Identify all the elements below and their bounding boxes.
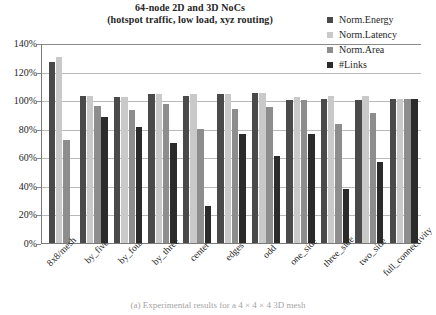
- bar[interactable]: [56, 57, 63, 243]
- bar[interactable]: [80, 96, 87, 243]
- bar[interactable]: [328, 96, 335, 243]
- bar[interactable]: [101, 117, 108, 243]
- y-axis-tick-label: 60%: [19, 153, 37, 163]
- bar-groups: [42, 44, 421, 243]
- y-axis-tick-label: 0%: [24, 239, 37, 249]
- chart-figure: 64-node 2D and 3D NoCs (hotspot traffic,…: [0, 0, 436, 315]
- bar[interactable]: [136, 127, 143, 243]
- legend-swatch-icon: [327, 17, 333, 23]
- bar[interactable]: [87, 96, 94, 243]
- legend-item-norm-energy[interactable]: Norm.Energy: [327, 12, 435, 27]
- bar[interactable]: [294, 97, 301, 243]
- bar[interactable]: [163, 104, 170, 243]
- bar[interactable]: [217, 94, 224, 243]
- bar-group: [76, 44, 110, 243]
- bar[interactable]: [259, 93, 266, 243]
- chart-subtitle: (hotspot traffic, low load, xyz routing): [55, 14, 325, 26]
- bar-group: [111, 44, 145, 243]
- bar-group: [214, 44, 248, 243]
- x-axis-label-slot: odd: [248, 246, 283, 296]
- bar[interactable]: [286, 100, 293, 243]
- bar-group: [145, 44, 179, 243]
- bar[interactable]: [390, 99, 397, 243]
- y-axis: 0%20%40%60%80%100%120%140%: [0, 44, 40, 244]
- bar[interactable]: [156, 94, 163, 243]
- x-axis-label-slot: by_five: [76, 246, 111, 296]
- x-axis-label-slot: center: [179, 246, 214, 296]
- bar[interactable]: [121, 97, 128, 243]
- figure-caption: (a) Experimental results for a 4 × 4 × 4…: [0, 300, 436, 310]
- bar[interactable]: [239, 134, 246, 243]
- bar-group: [283, 44, 317, 243]
- bar[interactable]: [197, 129, 204, 243]
- plot-area-wrapper: 0%20%40%60%80%100%120%140%: [0, 44, 436, 254]
- bar[interactable]: [362, 96, 369, 243]
- legend-item-norm-latency[interactable]: Norm.Latency: [327, 27, 435, 42]
- y-axis-tick-label: 20%: [19, 210, 37, 220]
- chart-title-block: 64-node 2D and 3D NoCs (hotspot traffic,…: [55, 2, 325, 26]
- bar[interactable]: [397, 99, 404, 243]
- bar[interactable]: [190, 94, 197, 243]
- bar[interactable]: [266, 107, 273, 243]
- bar[interactable]: [225, 94, 232, 243]
- chart-title: 64-node 2D and 3D NoCs: [55, 2, 325, 14]
- bar[interactable]: [148, 94, 155, 243]
- y-axis-tick-label: 120%: [14, 68, 37, 78]
- y-axis-tick-label: 80%: [19, 125, 37, 135]
- x-axis-label-slot: full_connectivity: [386, 246, 421, 296]
- y-axis-tick-label: 140%: [14, 39, 37, 49]
- bar[interactable]: [94, 106, 101, 243]
- bar[interactable]: [335, 124, 342, 243]
- x-axis-label: odd: [261, 243, 278, 260]
- x-axis-label-slot: edges: [214, 246, 249, 296]
- bar[interactable]: [301, 100, 308, 243]
- bar-group: [249, 44, 283, 243]
- x-axis-label-slot: three_side: [317, 246, 352, 296]
- bar[interactable]: [183, 96, 190, 243]
- bar-group: [42, 44, 76, 243]
- x-axis-label-slot: by_three: [145, 246, 180, 296]
- y-axis-tick-mark: [37, 244, 41, 245]
- bar[interactable]: [377, 162, 384, 243]
- bar[interactable]: [370, 113, 377, 243]
- x-axis-label-slot: 8x8/mesh: [41, 246, 76, 296]
- legend-swatch-icon: [327, 32, 333, 38]
- bar[interactable]: [404, 99, 411, 243]
- bar[interactable]: [170, 143, 177, 243]
- x-axis-label-slot: one_side: [283, 246, 318, 296]
- bar[interactable]: [411, 99, 418, 243]
- bar[interactable]: [321, 99, 328, 243]
- x-axis-label-slot: by_four: [110, 246, 145, 296]
- bar[interactable]: [232, 109, 239, 243]
- bar[interactable]: [274, 156, 281, 243]
- bar-group: [387, 44, 421, 243]
- plot-area: [41, 44, 421, 244]
- bar[interactable]: [63, 140, 70, 243]
- bar[interactable]: [355, 100, 362, 243]
- bar[interactable]: [114, 97, 121, 243]
- bar[interactable]: [308, 134, 315, 243]
- legend-label: Norm.Latency: [339, 29, 397, 40]
- bar[interactable]: [129, 110, 136, 243]
- legend-label: Norm.Energy: [339, 14, 394, 25]
- bar-group: [180, 44, 214, 243]
- bar[interactable]: [205, 206, 212, 243]
- bar-group: [318, 44, 352, 243]
- bar[interactable]: [252, 93, 259, 243]
- y-axis-tick-label: 100%: [14, 96, 37, 106]
- x-axis-labels: 8x8/meshby_fiveby_fourby_threecenteredge…: [41, 246, 421, 296]
- bar-group: [352, 44, 386, 243]
- y-axis-tick-label: 40%: [19, 182, 37, 192]
- bar[interactable]: [49, 62, 56, 243]
